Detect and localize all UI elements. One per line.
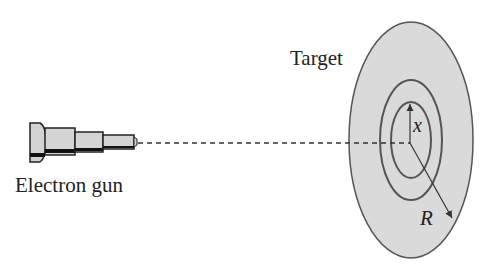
outer-radius-label: R (420, 206, 433, 231)
target-disk (349, 22, 473, 258)
diagram-canvas (0, 0, 493, 274)
target-label: Target (290, 46, 343, 71)
inner-radius-label: x (413, 114, 422, 137)
electron-gun-label: Electron gun (15, 173, 123, 198)
electron-gun-icon (30, 123, 137, 162)
